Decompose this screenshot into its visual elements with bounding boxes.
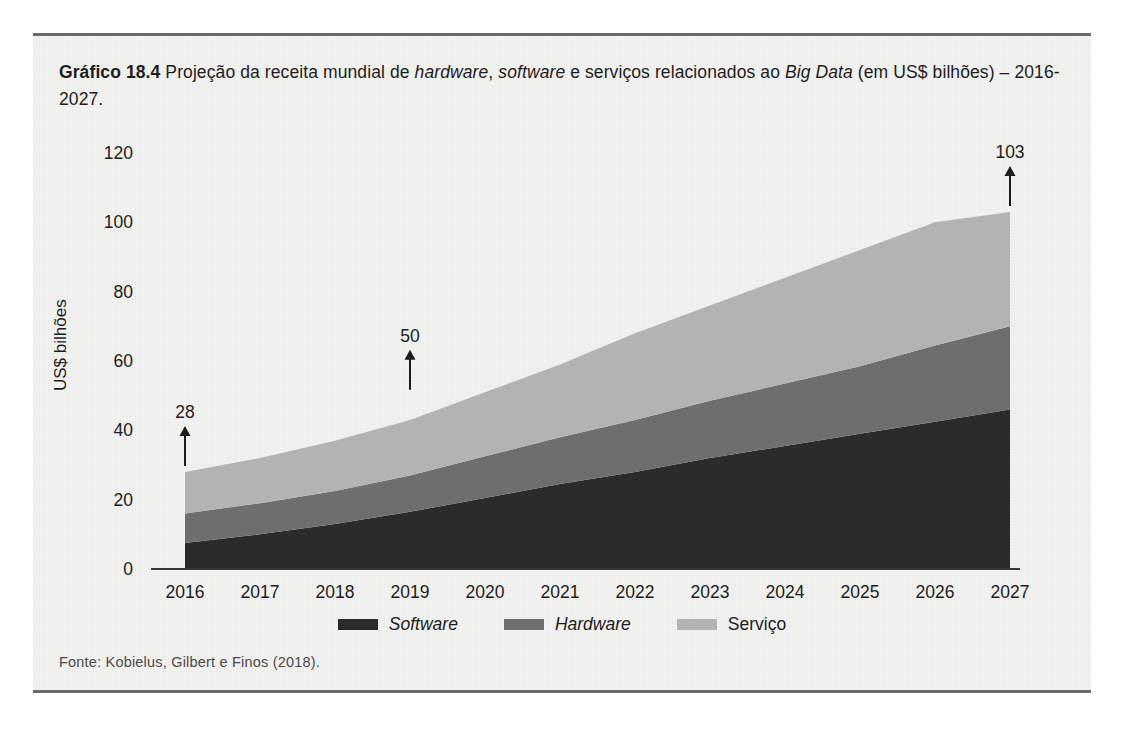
y-axis-title: US$ bilhões bbox=[51, 299, 71, 391]
x-axis-tick-2016: 2016 bbox=[166, 582, 205, 603]
annotation-arrow-head bbox=[1005, 166, 1016, 176]
data-annotation-28: 28 bbox=[175, 402, 194, 423]
annotation-arrow-head bbox=[405, 350, 416, 360]
figure-container: Gráfico 18.4 Projeção da receita mundial… bbox=[33, 33, 1091, 693]
y-axis-tick-120: 120 bbox=[77, 143, 133, 164]
y-axis-tick-100: 100 bbox=[77, 212, 133, 233]
legend-item-serviço[interactable]: Serviço bbox=[677, 614, 786, 635]
x-axis-tick-2026: 2026 bbox=[916, 582, 955, 603]
x-axis-tick-2025: 2025 bbox=[841, 582, 880, 603]
page-root: Gráfico 18.4 Projeção da receita mundial… bbox=[0, 0, 1125, 748]
legend-item-hardware[interactable]: Hardware bbox=[504, 614, 631, 635]
y-axis-tick-60: 60 bbox=[77, 351, 133, 372]
x-axis-tick-2023: 2023 bbox=[691, 582, 730, 603]
y-axis-tick-labels: 020406080100120 bbox=[73, 36, 133, 690]
legend-swatch-serviço bbox=[677, 619, 717, 630]
y-axis-tick-20: 20 bbox=[77, 489, 133, 510]
y-axis-tick-40: 40 bbox=[77, 420, 133, 441]
figure-source: Fonte: Kobielus, Gilbert e Finos (2018). bbox=[59, 654, 320, 670]
x-axis-tick-2020: 2020 bbox=[466, 582, 505, 603]
legend-item-software[interactable]: Software bbox=[338, 614, 458, 635]
x-axis-tick-2021: 2021 bbox=[541, 582, 580, 603]
legend-label-hardware: Hardware bbox=[555, 614, 631, 635]
x-axis-tick-2027: 2027 bbox=[991, 582, 1030, 603]
annotation-arrow-head bbox=[180, 426, 191, 436]
legend-swatch-software bbox=[338, 619, 378, 630]
x-axis-tick-2018: 2018 bbox=[316, 582, 355, 603]
x-axis-tick-2022: 2022 bbox=[616, 582, 655, 603]
legend-swatch-hardware bbox=[504, 619, 544, 630]
data-annotation-50: 50 bbox=[400, 326, 419, 347]
chart-area: US$ bilhões 020406080100120 201620172018… bbox=[33, 36, 1091, 690]
x-axis-tick-2019: 2019 bbox=[391, 582, 430, 603]
legend-label-software: Software bbox=[389, 614, 458, 635]
x-axis-tick-2024: 2024 bbox=[766, 582, 805, 603]
legend-label-serviço: Serviço bbox=[728, 614, 786, 635]
y-axis-tick-80: 80 bbox=[77, 281, 133, 302]
y-axis-tick-0: 0 bbox=[77, 559, 133, 580]
x-axis-tick-2017: 2017 bbox=[241, 582, 280, 603]
data-annotation-103: 103 bbox=[995, 142, 1024, 163]
chart-legend: SoftwareHardwareServiço bbox=[33, 614, 1091, 635]
